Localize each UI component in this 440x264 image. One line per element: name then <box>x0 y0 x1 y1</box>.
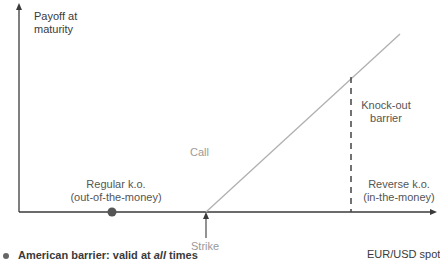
reverse-ko-line2: (in-the-money) <box>360 191 438 204</box>
y-axis-label: Payoff at maturity <box>34 10 77 36</box>
x-axis-arrowhead <box>430 209 437 215</box>
footnote: American barrier: valid at all times <box>18 249 198 262</box>
barrier-label-line2: barrier <box>356 112 416 125</box>
regular-ko-line2: (out-of-the-money) <box>68 191 164 204</box>
strike-arrowhead <box>203 212 209 219</box>
footnote-suffix: times <box>166 249 198 261</box>
reverse-ko-label: Reverse k.o. (in-the-money) <box>360 178 438 204</box>
call-label: Call <box>190 146 209 159</box>
y-axis-arrowhead <box>16 3 22 10</box>
barrier-label-line1: Knock-out <box>356 99 416 112</box>
reverse-ko-line1: Reverse k.o. <box>360 178 438 191</box>
footnote-emphasis: all <box>154 249 166 261</box>
y-axis-label-line2: maturity <box>34 23 77 36</box>
regular-ko-line1: Regular k.o. <box>68 178 164 191</box>
knock-out-barrier-label: Knock-out barrier <box>356 99 416 125</box>
footnote-prefix: American barrier: valid at <box>18 249 154 261</box>
x-axis-label: EUR/USD spot <box>367 248 440 261</box>
regular-ko-marker <box>108 208 117 217</box>
regular-ko-label: Regular k.o. (out-of-the-money) <box>68 178 164 204</box>
y-axis-label-line1: Payoff at <box>34 10 77 23</box>
footnote-bullet-icon <box>3 253 9 259</box>
